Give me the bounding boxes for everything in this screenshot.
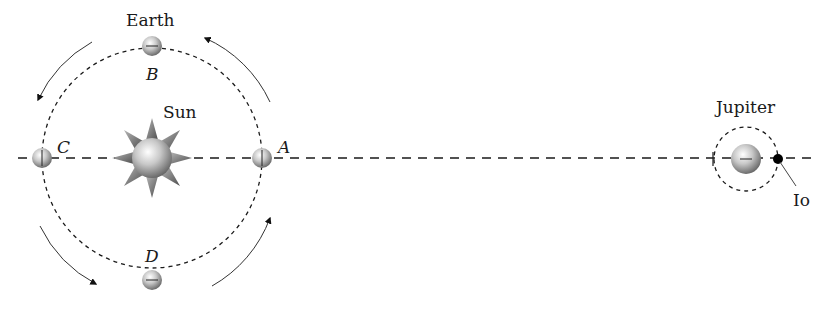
label-point-a: A: [276, 137, 290, 157]
label-jupiter: Jupiter: [714, 97, 776, 117]
orbit-arrow-bottom-right: [212, 218, 270, 286]
sun-icon: [112, 118, 192, 198]
io-pointer-line: [780, 162, 796, 186]
label-earth: Earth: [126, 10, 175, 30]
earth-position-a: [252, 148, 272, 168]
label-point-d: D: [144, 246, 159, 266]
label-point-c: C: [57, 137, 70, 157]
orbit-arrow-bottom-left: [40, 226, 96, 284]
orbit-arrow-top-right: [205, 38, 270, 102]
earth-position-c: [32, 148, 52, 168]
jupiter-icon: [731, 144, 761, 174]
label-sun: Sun: [163, 102, 197, 122]
label-point-b: B: [145, 64, 159, 84]
earth-position-b: [142, 36, 162, 56]
earth-position-d: [142, 270, 162, 290]
label-io: Io: [793, 190, 810, 210]
io-icon: [773, 154, 783, 164]
earth-orbit-diagram: Earth Sun Jupiter Io A B C D: [0, 0, 820, 312]
